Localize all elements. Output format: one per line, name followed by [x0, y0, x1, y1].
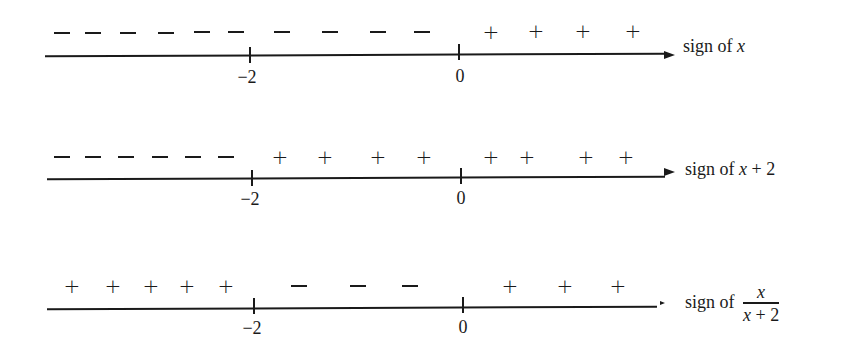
tick-0: [462, 297, 464, 313]
plus-sign: +: [557, 276, 574, 296]
minus-sign: [152, 156, 168, 158]
fraction-denominator: x + 2: [743, 305, 779, 325]
plus-sign: +: [578, 147, 595, 167]
minus-sign: [120, 32, 136, 34]
plus-sign: +: [502, 276, 519, 296]
plus-sign: +: [416, 147, 433, 167]
plus-sign: +: [575, 21, 592, 41]
tick-label-0: 0: [459, 317, 468, 338]
minus-sign: [158, 32, 174, 34]
tick-0: [460, 168, 462, 184]
arrowhead-icon: [664, 168, 675, 176]
plus-sign: +: [317, 147, 334, 167]
plus-sign: +: [528, 21, 545, 41]
tick-label-minus-2: −2: [240, 189, 259, 210]
fraction-bar: [743, 302, 779, 304]
plus-sign: +: [64, 276, 81, 296]
row-caption: sign of x + 2: [685, 159, 775, 180]
number-line: [47, 176, 665, 181]
tick-minus-2: [251, 170, 253, 186]
minus-sign: [402, 285, 418, 287]
plus-sign: +: [370, 147, 387, 167]
tick-label-minus-2: −2: [237, 67, 256, 88]
fraction: xx + 2: [743, 283, 779, 325]
number-line: [47, 306, 657, 311]
minus-sign: [54, 32, 70, 34]
minus-sign: [414, 31, 430, 33]
row-caption: sign of xx + 2: [685, 283, 779, 325]
plus-sign: +: [218, 276, 235, 296]
minus-sign: [370, 31, 386, 33]
plus-sign: +: [610, 276, 627, 296]
plus-sign: +: [105, 276, 122, 296]
row-caption: sign of x: [683, 36, 745, 57]
sign-row-x: ++++ −2 0 sign of x: [0, 0, 846, 110]
minus-sign: [322, 31, 338, 33]
caption-prefix: sign of: [685, 159, 739, 179]
minus-sign: [85, 156, 101, 158]
minus-sign: [85, 32, 101, 34]
plus-sign: +: [143, 276, 160, 296]
minus-sign: [218, 156, 234, 158]
plus-sign: +: [618, 147, 635, 167]
arrowhead-icon: [664, 51, 675, 59]
fraction-numerator: x: [743, 283, 779, 301]
caption-prefix: sign of: [685, 292, 739, 312]
plus-sign: +: [483, 22, 500, 42]
minus-sign: [194, 31, 210, 33]
minus-sign: [228, 31, 244, 33]
caption-suffix: + 2: [747, 159, 775, 179]
plus-sign: +: [272, 147, 289, 167]
minus-sign: [118, 156, 134, 158]
tick-minus-2: [253, 298, 255, 314]
caption-prefix: sign of: [683, 36, 737, 56]
caption-variable: x: [737, 36, 745, 56]
number-line: [45, 53, 665, 58]
minus-sign: [291, 285, 307, 287]
tick-0: [458, 44, 460, 60]
sign-row-quotient: ++++++++ −2 0 sign of xx + 2: [0, 230, 846, 340]
tick-label-0: 0: [457, 188, 466, 209]
plus-sign: +: [625, 21, 642, 41]
minus-sign: [54, 156, 70, 158]
plus-sign: +: [483, 147, 500, 167]
minus-sign: [274, 31, 290, 33]
minus-sign: [185, 156, 201, 158]
sign-row-x-plus-2: ++++++++ −2 0 sign of x + 2: [0, 110, 846, 220]
plus-sign: +: [179, 276, 196, 296]
caption-variable: x: [739, 159, 747, 179]
tick-minus-2: [249, 47, 251, 63]
arrowhead-icon: [660, 301, 665, 305]
tick-label-0: 0: [456, 66, 465, 87]
minus-sign: [350, 285, 366, 287]
plus-sign: +: [519, 147, 536, 167]
tick-label-minus-2: −2: [242, 318, 261, 339]
